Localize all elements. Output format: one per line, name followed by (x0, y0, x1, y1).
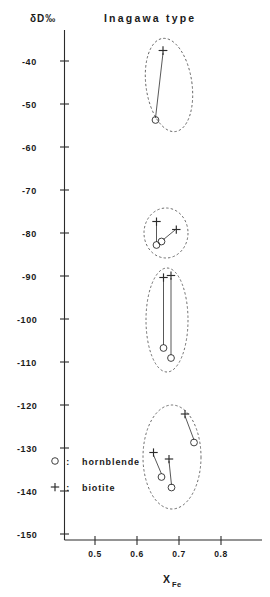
group-outline-4 (143, 405, 201, 509)
hornblende-marker (158, 238, 165, 245)
data-group-4 (143, 405, 201, 509)
y-tick-label: -50 (22, 100, 37, 110)
hornblende-marker (158, 474, 165, 481)
biotite-marker (181, 410, 189, 418)
data-group-2 (144, 208, 188, 258)
biotite-marker (172, 225, 180, 233)
x-axis-label-subscript: Fe (172, 580, 182, 589)
hornblende-marker (153, 242, 160, 249)
y-tick-label: -40 (22, 57, 37, 67)
hornblende-marker (191, 439, 198, 446)
y-tick-label: -140 (17, 487, 37, 497)
y-tick-label: -150 (17, 530, 37, 540)
y-tick-label: -120 (17, 401, 37, 411)
x-tick-label: 0.5 (88, 549, 102, 559)
y-tick-group: -40 -50 -60 -70 -80 -90 -100 -110 -120 -… (17, 57, 69, 540)
biotite-marker (165, 455, 173, 463)
group-outline-2 (144, 208, 188, 258)
legend-separator: : (66, 483, 70, 493)
legend-label-biotite: biotite (82, 483, 115, 493)
biotite-marker (167, 271, 175, 279)
group-outline-3 (146, 268, 188, 372)
x-tick-label: 0.6 (130, 549, 144, 559)
hornblende-marker (160, 345, 167, 352)
plus-marker-icon (51, 483, 59, 491)
x-tick-label: 0.7 (172, 549, 186, 559)
biotite-marker (152, 218, 160, 226)
y-tick-label: -80 (22, 229, 37, 239)
biotite-marker (159, 46, 168, 55)
y-tick-label: -100 (17, 315, 37, 325)
y-axis-label: δD‰ (30, 13, 56, 24)
x-tick-label: 0.8 (214, 549, 228, 559)
tie-line (154, 455, 162, 474)
hornblende-marker (168, 484, 175, 491)
y-tick-label: -130 (17, 444, 37, 454)
group-outline-1 (140, 35, 199, 134)
biotite-marker (159, 273, 167, 281)
x-axis-label: X Fe (163, 573, 182, 589)
circle-marker-icon (52, 458, 59, 465)
y-tick-label: -70 (22, 186, 37, 196)
biotite-marker (149, 448, 157, 456)
x-axis-label-main: X (163, 573, 171, 585)
tie-line (156, 53, 164, 118)
data-group-3 (146, 268, 188, 372)
y-tick-label: -90 (22, 272, 37, 282)
chart-title: Inagawa type (104, 12, 196, 24)
tie-line (164, 230, 176, 240)
legend-label-hornblende: hornblende (82, 457, 140, 467)
chart-figure: δD‰ Inagawa type -40 -50 -60 -70 -80 -90… (0, 0, 270, 597)
data-group-1 (140, 35, 199, 134)
inagawa-type-scatter-plot: δD‰ Inagawa type -40 -50 -60 -70 -80 -90… (0, 0, 270, 597)
y-tick-label: -110 (17, 358, 37, 368)
tie-line (185, 416, 194, 440)
y-tick-label: -60 (22, 143, 37, 153)
hornblende-marker (168, 355, 175, 362)
legend-separator: : (66, 457, 70, 467)
tie-line (169, 461, 172, 485)
